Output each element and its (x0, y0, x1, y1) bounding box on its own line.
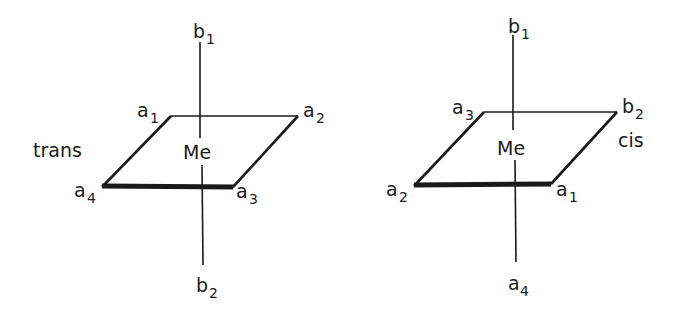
ligand-back-left-subscript: 3 (465, 107, 474, 123)
trans-complex: Me trans b 1 b 2 a 1 a 2 a 3 a 4 (33, 20, 325, 301)
ligand-front-left-subscript: 2 (399, 189, 408, 205)
ligand-front-left-subscript: 4 (87, 190, 96, 206)
ligand-top-subscript: 1 (521, 26, 530, 42)
ligand-back-left-label: a (137, 99, 149, 121)
ligand-front-right-subscript: 3 (249, 191, 258, 207)
ligand-bottom-subscript: 4 (520, 283, 529, 299)
plane-edge-right (551, 112, 617, 184)
ligand-back-left-subscript: 1 (150, 110, 159, 126)
isomer-type-label: cis (618, 129, 644, 151)
isomer-type-label: trans (33, 139, 82, 161)
plane-edge-right (233, 116, 298, 187)
ligand-back-left-label: a (452, 96, 464, 118)
ligand-front-left-label: a (74, 179, 86, 201)
isomer-diagram: Me trans b 1 b 2 a 1 a 2 a 3 a 4 Me cis … (0, 0, 673, 315)
ligand-front-right-subscript: 1 (569, 189, 578, 205)
center-atom-label: Me (183, 141, 211, 163)
plane-edge-front (102, 186, 233, 187)
ligand-top-label: b (193, 20, 205, 42)
ligand-back-right-label: a (303, 99, 315, 121)
plane-edge-left (414, 112, 484, 186)
ligand-back-right-subscript: 2 (316, 110, 325, 126)
ligand-front-right-label: a (556, 178, 568, 200)
ligand-bottom-label: a (508, 272, 520, 294)
plane-edge-front (414, 184, 551, 185)
axis-line-bottom (515, 160, 516, 262)
ligand-top-subscript: 1 (206, 31, 215, 47)
cis-complex: Me cis b 1 a 4 a 3 b 2 a 1 a 2 (386, 15, 644, 299)
center-atom-label: Me (497, 137, 525, 159)
ligand-bottom-label: b (196, 274, 208, 296)
ligand-bottom-subscript: 2 (209, 285, 218, 301)
axis-line-bottom (202, 165, 203, 265)
ligand-back-right-label: b (622, 95, 634, 117)
ligand-front-left-label: a (386, 178, 398, 200)
ligand-front-right-label: a (236, 180, 248, 202)
ligand-back-right-subscript: 2 (635, 106, 644, 122)
ligand-top-label: b (508, 15, 520, 37)
plane-edge-left (102, 116, 171, 187)
